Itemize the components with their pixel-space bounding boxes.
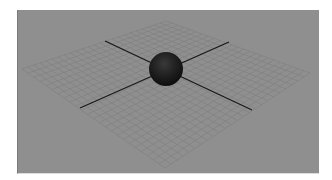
sphere-wireframe (149, 52, 183, 86)
ground-grid (22, 21, 310, 168)
sphere-object[interactable] (149, 52, 183, 86)
viewport-scene[interactable] (0, 0, 332, 180)
